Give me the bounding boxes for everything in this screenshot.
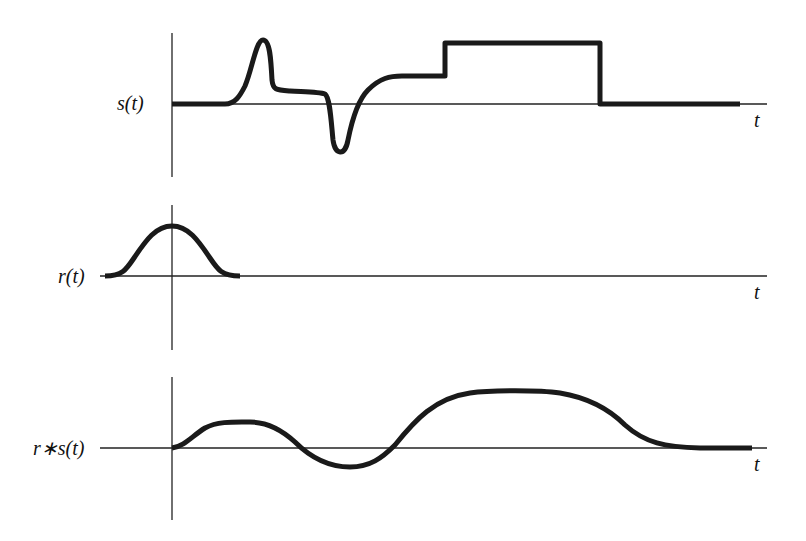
conv-result-curve xyxy=(172,391,752,467)
convolution-diagram: s(t) t r(t) t r∗s(t) t xyxy=(0,0,806,541)
s-signal-curve xyxy=(172,40,740,152)
conv-label: r∗s(t) xyxy=(33,437,85,460)
conv-t-label: t xyxy=(754,453,760,475)
r-label: r(t) xyxy=(58,265,85,288)
panel-s: s(t) t xyxy=(117,33,767,177)
r-t-label: t xyxy=(754,281,760,303)
panel-conv: r∗s(t) t xyxy=(33,377,767,520)
panel-r: r(t) t xyxy=(58,205,767,350)
s-label: s(t) xyxy=(117,92,144,115)
s-t-label: t xyxy=(754,109,760,131)
